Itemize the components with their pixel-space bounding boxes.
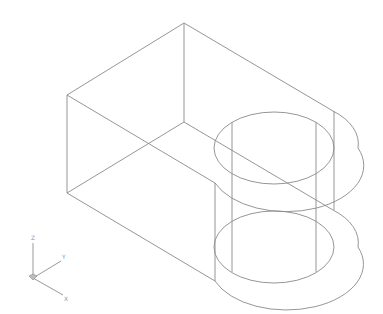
- base-back-left-edge: [67, 122, 184, 193]
- bottom-outer-arc: [215, 210, 363, 310]
- top-back-left-edge: [67, 23, 184, 95]
- y-axis-line: [33, 261, 61, 278]
- bottom-front-edge: [67, 193, 215, 281]
- drawing-viewport[interactable]: Z Y X: [0, 0, 383, 314]
- z-axis-label: Z: [31, 234, 35, 241]
- x-axis-line: [33, 278, 63, 295]
- x-axis-label: X: [64, 295, 68, 302]
- top-front-edge: [67, 95, 215, 183]
- wireframe-drawing: Z Y X: [0, 0, 383, 314]
- top-back-right-edge: [184, 23, 333, 111]
- base-back-right-edge: [184, 122, 333, 210]
- ucs-icon: Z Y X: [29, 234, 68, 302]
- y-axis-label: Y: [61, 253, 66, 260]
- top-outer-arc: [215, 111, 364, 212]
- block-wireframe: [67, 23, 364, 310]
